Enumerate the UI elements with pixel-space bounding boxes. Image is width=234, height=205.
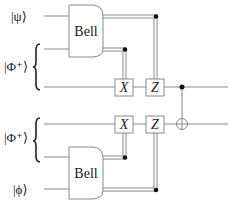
classical-wires-bottom	[103, 131, 157, 191]
brace-bottom	[33, 118, 40, 162]
classical-control-dot	[154, 188, 159, 193]
bell-gate-top-label: Bell	[74, 24, 97, 39]
classical-control-dot	[123, 47, 128, 52]
cnot-control-dot	[180, 85, 185, 90]
quantum-circuit: |ψ⟩ |Φ⁺⟩ |Φ⁺⟩ |ϕ⟩ Bell Bell	[0, 0, 234, 205]
cnot-target-icon	[177, 119, 188, 130]
input-label-phi: |ϕ⟩	[13, 182, 28, 197]
z-gate-bottom-label: Z	[151, 117, 159, 132]
classical-control-dot	[154, 14, 159, 19]
x-gate-bottom-label: X	[119, 117, 129, 132]
classical-wires-top	[103, 15, 157, 80]
bell-gate-bottom-label: Bell	[74, 166, 97, 181]
input-label-psi: |ψ⟩	[11, 9, 27, 24]
x-gate-top-label: X	[119, 80, 129, 95]
z-gate-top-label: Z	[151, 80, 159, 95]
brace-top	[33, 44, 40, 90]
input-label-phi-plus-top: |Φ⁺⟩	[4, 59, 28, 74]
input-label-phi-plus-bottom: |Φ⁺⟩	[4, 130, 28, 145]
classical-control-dot	[123, 155, 128, 160]
